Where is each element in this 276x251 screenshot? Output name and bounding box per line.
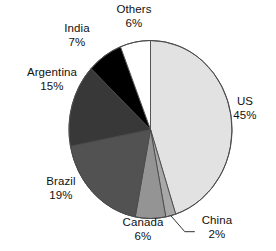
pie-label-canada: Canada 6% <box>110 216 176 243</box>
pie-label-canada-percent: 6% <box>110 230 176 244</box>
pie-label-china: China 2% <box>186 214 248 241</box>
pie-label-brazil-name: Brazil <box>28 175 94 189</box>
pie-label-canada-name: Canada <box>110 216 176 230</box>
pie-label-india-name: India <box>46 22 108 36</box>
pie-label-us: US 45% <box>222 95 268 122</box>
pie-label-argentina: Argentina 15% <box>10 66 94 93</box>
pie-label-china-percent: 2% <box>186 228 248 242</box>
pie-label-others-percent: 6% <box>101 17 167 31</box>
pie-label-argentina-name: Argentina <box>10 66 94 80</box>
pie-label-brazil-percent: 19% <box>28 189 94 203</box>
pie-label-others: Others 6% <box>101 3 167 30</box>
pie-label-india: India 7% <box>46 22 108 49</box>
pie-label-others-name: Others <box>101 3 167 17</box>
pie-label-brazil: Brazil 19% <box>28 175 94 202</box>
pie-label-us-name: US <box>222 95 268 109</box>
pie-label-china-name: China <box>186 214 248 228</box>
pie-label-argentina-percent: 15% <box>10 80 94 94</box>
pie-label-india-percent: 7% <box>46 36 108 50</box>
pie-chart-figure: Others 6% India 7% Argentina 15% Brazil … <box>0 0 276 251</box>
pie-label-us-percent: 45% <box>222 109 268 123</box>
